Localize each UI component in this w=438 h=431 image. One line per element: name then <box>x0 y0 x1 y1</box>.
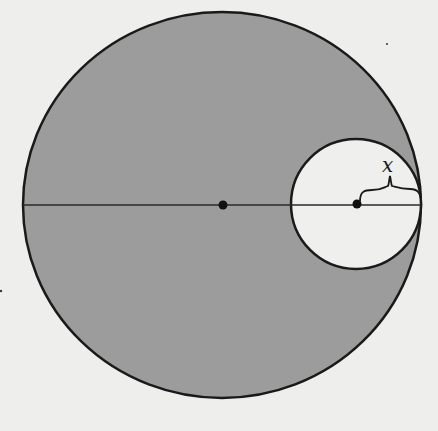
diagram-canvas: x <box>0 0 438 431</box>
scan-speck <box>386 43 388 45</box>
center-point-large <box>219 201 228 210</box>
radius-label-x: x <box>382 153 393 177</box>
scan-speck <box>0 290 2 292</box>
geometry-figure: x <box>0 0 438 431</box>
